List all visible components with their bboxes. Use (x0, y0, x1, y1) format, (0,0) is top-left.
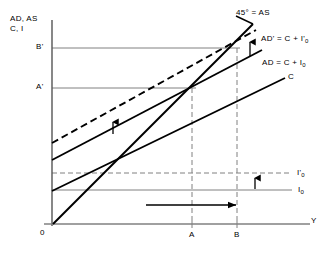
keynesian-cross-diagram: AD, AS C, I B' A' A B 0 Y 45° = AS AD' =… (0, 0, 336, 253)
line-label-investment-prime: I'0 (297, 168, 305, 178)
consumption-curve (52, 78, 285, 191)
y-tick-label-aprime: A' (36, 82, 43, 92)
curve-label-ad-subscript: 0 (302, 62, 306, 68)
y-axis-caption-line-2: C, I (10, 24, 38, 34)
curve-label-c: C (288, 72, 294, 82)
y-axis-caption-line-1: AD, AS (10, 14, 38, 24)
y-axis-caption: AD, AS C, I (10, 14, 38, 34)
x-tick-label-b: B (234, 230, 240, 240)
curve-label-ad-prime-text: AD' = C + I' (261, 34, 305, 43)
curve-label-ad: AD = C + I0 (262, 58, 306, 68)
curve-label-ad-text: AD = C + I (262, 58, 302, 67)
curve-label-as: 45° = AS (236, 8, 270, 18)
line-label-investment: I0 (298, 185, 304, 195)
x-tick-label-a: A (189, 230, 195, 240)
ad-prime-curve (52, 30, 256, 143)
line-label-investment-subscript: 0 (301, 189, 305, 195)
x-axis-label: Y (311, 216, 317, 226)
origin-label: 0 (40, 228, 45, 238)
y-tick-label-bprime: B' (36, 42, 43, 52)
curve-label-ad-prime: AD' = C + I'0 (261, 34, 309, 44)
as-45-degree-line (53, 24, 253, 224)
curve-label-ad-prime-subscript: 0 (305, 38, 309, 44)
line-label-investment-prime-subscript: 0 (301, 172, 305, 178)
